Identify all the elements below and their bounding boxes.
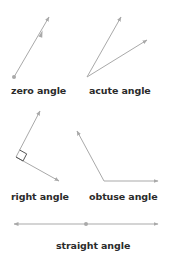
- obtuse-angle-label: obtuse angle: [89, 192, 158, 202]
- zero-angle-vertex-dot: [12, 75, 16, 79]
- obtuse-angle-figure: [77, 131, 158, 181]
- acute-angle-label: acute angle: [89, 86, 151, 96]
- zero-angle-figure: [12, 17, 49, 79]
- acute-angle-ray-2: [87, 40, 147, 77]
- straight-angle-figure: [14, 222, 158, 226]
- acute-angle-figure: [87, 17, 147, 77]
- zero-angle-ray: [14, 17, 49, 77]
- right-angle-figure: [16, 111, 59, 181]
- angle-types-diagram: [0, 0, 170, 259]
- right-angle-label: right angle: [11, 192, 69, 202]
- zero-angle-label: zero angle: [11, 86, 66, 96]
- straight-angle-label: straight angle: [56, 241, 130, 251]
- obtuse-angle-ray-1: [77, 131, 104, 181]
- right-angle-marker-icon: [16, 150, 27, 161]
- right-angle-ray-1: [16, 111, 40, 157]
- straight-angle-vertex-dot: [84, 222, 88, 226]
- acute-angle-ray-1: [87, 17, 121, 77]
